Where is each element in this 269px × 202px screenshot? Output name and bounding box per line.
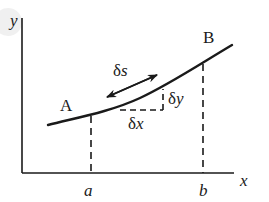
ds-label-delta: δ [113, 61, 121, 80]
arc-length-diagram: y x a b A B δs δx δy [0, 0, 269, 202]
tick-label-a: a [84, 181, 93, 200]
ds-label: δs [113, 61, 128, 80]
dy-label: δy [168, 89, 184, 108]
y-axis-label: y [8, 11, 18, 30]
dx-label: δx [128, 114, 144, 133]
curve-ab [48, 45, 232, 125]
dx-label-var: x [135, 114, 144, 133]
dy-label-delta: δ [168, 89, 176, 108]
point-label-b: B [203, 28, 214, 47]
dx-label-delta: δ [128, 114, 136, 133]
tick-label-b: b [199, 181, 208, 200]
x-axis-label: x [239, 171, 248, 190]
diagram-canvas: y x a b A B δs δx δy [0, 0, 269, 202]
ds-label-var: s [121, 61, 128, 80]
point-label-a: A [60, 96, 73, 115]
dy-label-var: y [174, 89, 184, 108]
